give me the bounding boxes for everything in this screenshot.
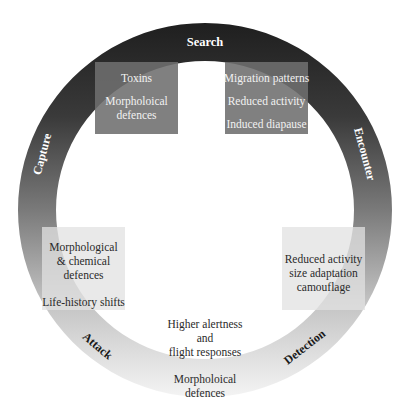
- box-line: size adaptation: [289, 266, 358, 280]
- box-search-capture-defences: Toxins Morpholoical defences: [95, 62, 178, 134]
- box-line: Migration patterns: [224, 71, 309, 85]
- text-line: Higher alertness: [150, 317, 260, 331]
- box-line: Induced diapause: [226, 117, 306, 131]
- text-line: flight responses: [150, 345, 260, 359]
- box-search-encounter-defences: Migration patterns Reduced activity Indu…: [225, 62, 308, 134]
- text-line: Morpholoical: [150, 372, 260, 386]
- box-line: Reduced activity: [285, 252, 363, 266]
- box-line: camouflage: [297, 280, 351, 294]
- box-line: Reduced activity: [228, 94, 306, 108]
- box-line: Morpholoical defences: [95, 94, 178, 122]
- box-encounter-detection-defences: Reduced activity size adaptation camoufl…: [282, 227, 365, 310]
- stage-label-search: Search: [187, 35, 224, 49]
- text-line: and: [150, 331, 260, 345]
- ring-bottom-defences: Morpholoical defences: [150, 372, 260, 400]
- box-line: Toxins: [121, 71, 152, 85]
- detection-attack-defences: Higher alertness and flight responses: [150, 317, 260, 359]
- box-attack-capture-defences: Morphological & chemical defences Life-h…: [42, 227, 125, 310]
- box-line: Morphological & chemical defences: [42, 240, 125, 282]
- box-line: Life-history shifts: [42, 295, 125, 309]
- text-line: defences: [150, 386, 260, 400]
